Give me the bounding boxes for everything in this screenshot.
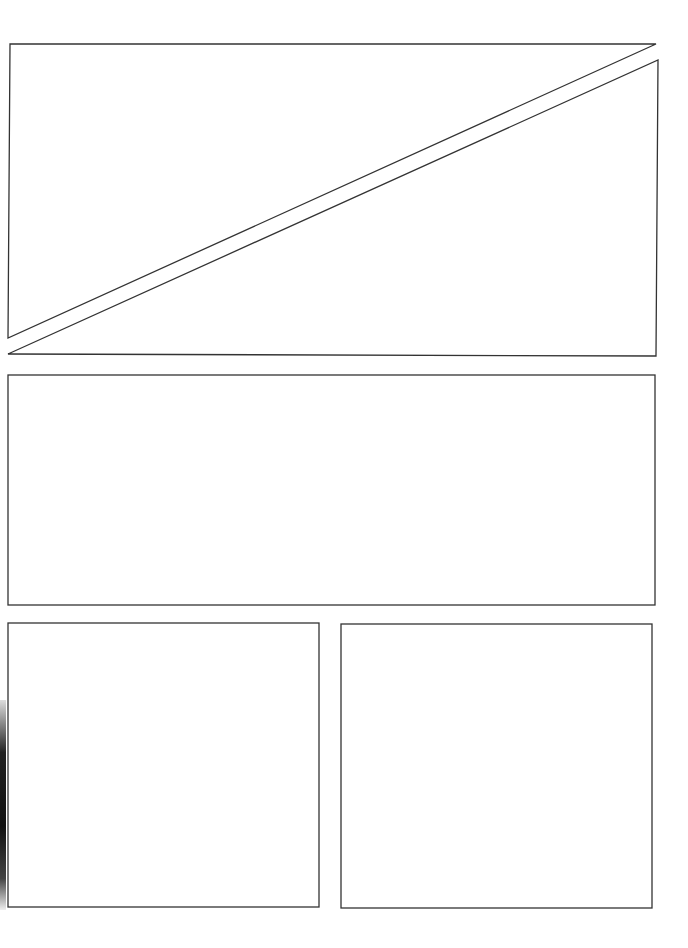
panel-wide-middle [8, 375, 655, 605]
scan-edge-shadow [0, 700, 6, 910]
panel-bottom-right [341, 624, 652, 908]
panel-bottom-left [8, 623, 319, 907]
comic-page [0, 0, 688, 948]
